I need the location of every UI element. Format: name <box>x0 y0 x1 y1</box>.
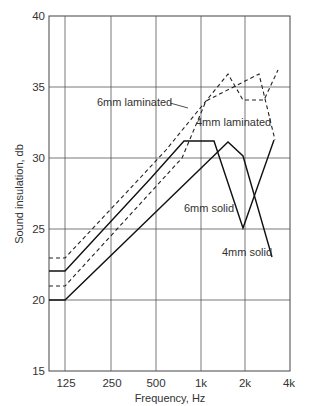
x-tick: 2k <box>239 377 251 389</box>
y-axis-label: Sound insulation, db <box>13 144 25 244</box>
x-tick: 250 <box>102 377 121 389</box>
y-tick: 30 <box>32 152 45 164</box>
x-tick-labels: 125 250 500 1k 2k 4k <box>56 377 295 389</box>
annotation-6mm-laminated: 6mm laminated <box>97 96 172 108</box>
y-tick: 20 <box>32 294 45 306</box>
y-tick-labels: 40 35 30 25 20 15 <box>32 10 45 377</box>
x-tick: 500 <box>146 377 165 389</box>
x-tick: 1k <box>195 377 207 389</box>
sound-insulation-chart: 40 35 30 25 20 15 125 250 500 1k 2k 4k F… <box>0 0 310 406</box>
series-4mm-solid <box>49 142 272 300</box>
annotation-4mm-solid: 4mm solid <box>222 246 272 258</box>
x-gridlines <box>65 16 245 371</box>
y-tick: 25 <box>32 223 45 235</box>
y-tick: 15 <box>32 365 45 377</box>
annotation-4mm-laminated: 4mm laminated <box>196 116 271 128</box>
x-tick: 4k <box>283 377 295 389</box>
x-tick: 125 <box>56 377 75 389</box>
annotation-leader <box>170 103 188 108</box>
y-tick: 35 <box>32 81 45 93</box>
y-tick: 40 <box>32 10 45 22</box>
x-axis-label: Frequency, Hz <box>135 392 206 404</box>
annotation-6mm-solid: 6mm solid <box>184 202 234 214</box>
